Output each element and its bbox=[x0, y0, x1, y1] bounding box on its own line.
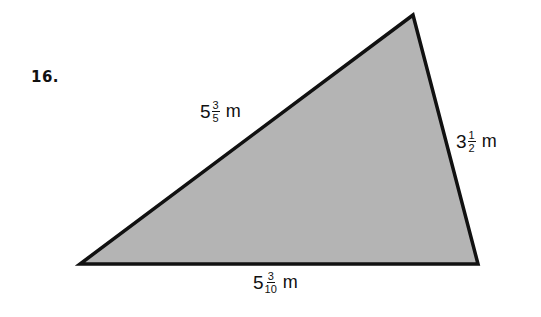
side-label-left: 5 3 5 m bbox=[200, 100, 241, 123]
side-left-fraction: 3 5 bbox=[212, 100, 220, 123]
side-bottom-whole: 5 bbox=[253, 272, 264, 294]
side-right-whole: 3 bbox=[456, 131, 467, 153]
side-right-numerator: 1 bbox=[468, 130, 476, 142]
side-right-denominator: 2 bbox=[469, 142, 475, 153]
side-label-right: 3 1 2 m bbox=[456, 130, 497, 153]
side-left-unit: m bbox=[226, 101, 241, 122]
side-right-unit: m bbox=[482, 131, 497, 152]
side-bottom-denominator: 10 bbox=[265, 283, 277, 294]
side-left-numerator: 3 bbox=[212, 100, 220, 112]
problem-number: 16. bbox=[31, 68, 59, 86]
side-bottom-numerator: 3 bbox=[267, 271, 275, 283]
triangle-shape bbox=[80, 15, 478, 264]
side-label-bottom: 5 3 10 m bbox=[253, 271, 298, 294]
side-bottom-unit: m bbox=[283, 272, 298, 293]
side-left-whole: 5 bbox=[200, 101, 211, 123]
side-right-fraction: 1 2 bbox=[468, 130, 476, 153]
side-bottom-fraction: 3 10 bbox=[265, 271, 277, 294]
side-left-denominator: 5 bbox=[213, 112, 219, 123]
